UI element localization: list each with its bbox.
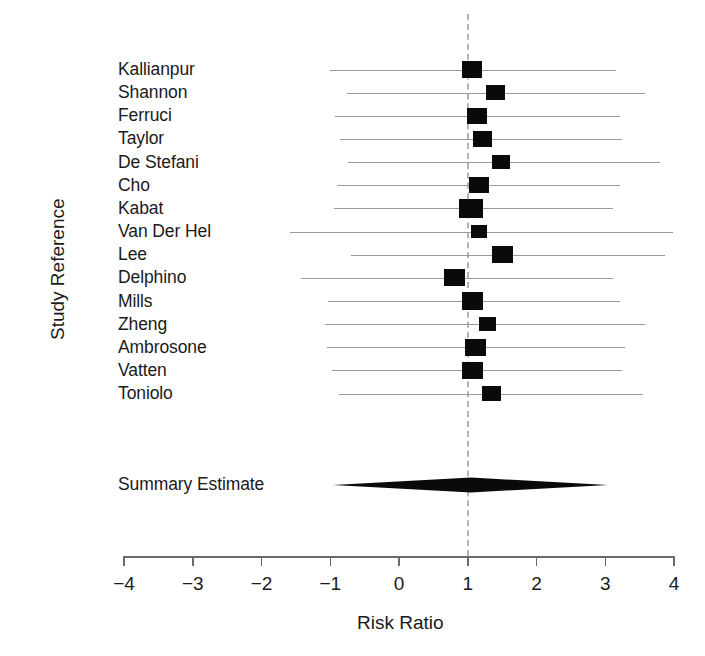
effect-estimate-marker (462, 292, 483, 309)
effect-estimate-marker (479, 317, 496, 331)
x-axis-tick (192, 556, 194, 566)
forest-plot: Study Reference KallianpurShannonFerruci… (0, 0, 705, 656)
x-axis-tick-label: 0 (394, 574, 405, 593)
study-label: De Stefani (118, 154, 199, 172)
study-label: Taylor (118, 130, 164, 148)
effect-estimate-marker (462, 362, 483, 379)
effect-estimate-marker (459, 199, 483, 219)
x-axis-tick (123, 556, 125, 566)
effect-estimate-marker (482, 386, 501, 402)
x-axis-tick (398, 556, 400, 566)
study-label: Delphino (118, 269, 186, 287)
study-label: Zheng (118, 316, 167, 334)
y-axis-title: Study Reference (48, 198, 67, 340)
x-axis-tick-label: 4 (669, 574, 680, 593)
effect-estimate-marker (473, 131, 492, 147)
x-axis-tick (467, 556, 469, 566)
study-label: Van Der Hel (118, 223, 211, 241)
x-axis-tick (673, 556, 675, 566)
x-axis-tick-label: −2 (251, 574, 273, 593)
x-axis-tick-label: −3 (182, 574, 204, 593)
study-label: Kallianpur (118, 61, 195, 79)
study-label: Cho (118, 177, 150, 195)
study-label: Shannon (118, 84, 187, 102)
x-axis-tick (330, 556, 332, 566)
x-axis-tick (605, 556, 607, 566)
x-axis-tick-label: 3 (600, 574, 611, 593)
effect-estimate-marker (492, 246, 513, 263)
x-axis-tick-label: −4 (113, 574, 135, 593)
effect-estimate-marker (492, 155, 510, 170)
study-label: Ferruci (118, 107, 172, 125)
study-label: Toniolo (118, 385, 173, 403)
study-label: Kabat (118, 200, 163, 218)
study-label: Vatten (118, 362, 167, 380)
effect-estimate-marker (471, 225, 487, 238)
x-axis-title: Risk Ratio (357, 613, 444, 632)
x-axis-tick-label: −1 (319, 574, 341, 593)
x-axis-tick (261, 556, 263, 566)
study-label: Lee (118, 246, 147, 264)
effect-estimate-marker (462, 61, 482, 77)
study-label: Mills (118, 293, 153, 311)
effect-estimate-marker (469, 177, 489, 193)
effect-estimate-marker (467, 108, 487, 124)
x-axis-tick-label: 2 (531, 574, 542, 593)
study-label: Ambrosone (118, 339, 207, 357)
summary-diamond (333, 474, 608, 496)
x-axis-tick (536, 556, 538, 566)
effect-estimate-marker (444, 269, 465, 286)
x-axis-tick-label: 1 (462, 574, 473, 593)
effect-estimate-marker (486, 85, 505, 101)
effect-estimate-marker (465, 339, 486, 356)
summary-estimate-label: Summary Estimate (118, 476, 264, 494)
